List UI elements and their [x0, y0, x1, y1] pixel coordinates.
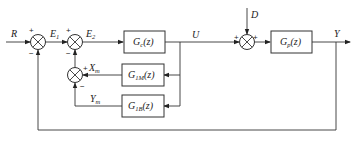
e1-label: E1 — [49, 28, 59, 40]
summing-junction-4 — [68, 68, 83, 83]
xm-label: Xm — [88, 62, 100, 74]
block-diagram: R + − E1 + − E2 Gc(z) U D + + Gp(z) — [0, 0, 356, 141]
sum4-minus-sign: − — [80, 82, 85, 91]
sum2-minus-sign: − — [66, 49, 71, 58]
summing-junction-2 — [68, 35, 83, 50]
sum2-plus-sign: + — [66, 26, 71, 35]
output-label-y: Y — [334, 28, 341, 39]
ym-label: Ym — [90, 93, 101, 105]
disturbance-label: D — [250, 9, 259, 20]
controller-label: Gc(z) — [133, 36, 154, 48]
sum4-plus-sign: + — [83, 64, 88, 73]
sum1-minus-sign: − — [29, 49, 34, 58]
e2-label: E2 — [85, 28, 96, 40]
input-label-r: R — [10, 28, 17, 39]
plant-label: Gp(z) — [280, 36, 302, 48]
sum1-plus-sign: + — [29, 26, 34, 35]
u-label: U — [192, 29, 200, 40]
sum3-plus-right: + — [253, 33, 258, 42]
outer-feedback-arrow — [36, 50, 40, 56]
sum3-plus-left: + — [234, 33, 239, 42]
ym-arrow — [73, 83, 77, 89]
summing-junction-1 — [31, 35, 46, 50]
